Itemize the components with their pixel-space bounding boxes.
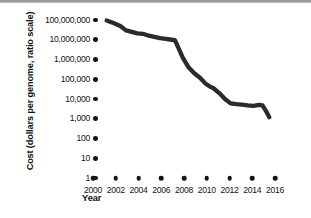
genome-sequencing-cost-chart: Cost (dollars per genome, ratio scale) 1… xyxy=(0,0,311,218)
cost-per-genome-line xyxy=(107,20,270,117)
plot-area xyxy=(0,0,311,218)
